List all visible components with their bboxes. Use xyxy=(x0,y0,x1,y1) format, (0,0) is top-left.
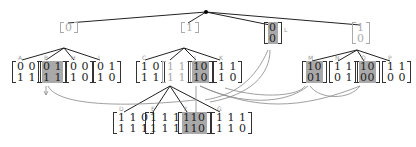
matrix-row: 1 1 1 xyxy=(150,123,181,134)
matrix-node-b: 0 11 1 xyxy=(38,61,67,83)
matrix-row: 0 xyxy=(65,22,73,33)
node-label: I xyxy=(98,54,100,61)
matrix-row: 1 0 xyxy=(70,72,89,83)
matrix-node-c: 1 01 1 xyxy=(136,61,165,83)
right-bracket xyxy=(207,112,211,134)
right-bracket xyxy=(195,22,199,33)
matrix-node-g: 1 1 11 1 0 xyxy=(211,112,252,134)
matrix-node-o: 1000 xyxy=(355,61,380,83)
matrix-cells: 1000 xyxy=(359,61,376,83)
node-label: L xyxy=(284,26,287,33)
matrix-node-f: 110110 xyxy=(178,112,211,134)
matrix-row: 0 xyxy=(269,33,277,44)
matrix-row: 10 xyxy=(193,72,208,83)
matrix-node-p: 1 10 0 xyxy=(382,61,411,83)
node-label: N xyxy=(335,54,340,61)
matrix-row: 1 1 0 xyxy=(216,123,247,134)
matrix-cells: 1 01 1 xyxy=(140,61,161,83)
matrix-node-l: 00 xyxy=(264,22,282,44)
matrix-cells: 0 01 1 xyxy=(16,61,37,83)
node-label: M xyxy=(308,54,313,61)
matrix-node-h: 0 01 0 xyxy=(65,61,94,83)
matrix-row: 1 1 xyxy=(167,72,186,83)
node-label: C xyxy=(142,54,146,61)
matrix-node-n3: 10 xyxy=(352,22,370,44)
matrix-node-i: 0 11 0 xyxy=(92,61,121,83)
matrix-row: 1 1 xyxy=(17,72,36,83)
node-label: A xyxy=(18,54,22,61)
matrix-row: 01 xyxy=(307,72,322,83)
matrix-node-a: 0 01 1 xyxy=(12,61,41,83)
matrix-node-j: 1010 xyxy=(188,61,213,83)
matrix-row: 1 1 xyxy=(141,72,160,83)
right-bracket xyxy=(366,22,370,44)
right-bracket xyxy=(238,61,242,83)
matrix-node-n0: 0 xyxy=(60,22,78,33)
right-bracket xyxy=(376,61,380,83)
node-label: H xyxy=(71,54,76,61)
right-bracket xyxy=(323,61,327,83)
matrix-cells: 110110 xyxy=(182,112,207,134)
matrix-cells: 1 11 1 xyxy=(166,61,187,83)
node-label: F xyxy=(184,105,187,112)
matrix-cells: 1 10 0 xyxy=(386,61,407,83)
matrix-node-m: 1001 xyxy=(302,61,327,83)
matrix-cells: 00 xyxy=(268,22,278,44)
matrix-row: 1 1 xyxy=(43,72,62,83)
node-label: P xyxy=(388,54,392,61)
right-bracket xyxy=(278,22,282,44)
right-bracket xyxy=(248,112,252,134)
node-label: O xyxy=(361,54,366,61)
matrix-row: 1 xyxy=(186,22,194,33)
matrix-row: 1 0 xyxy=(218,72,237,83)
node-label: E xyxy=(151,105,155,112)
matrix-cells: 0 11 0 xyxy=(96,61,117,83)
matrix-row: 00 xyxy=(360,72,375,83)
matrix-row: 0 xyxy=(357,33,365,44)
matrix-cells: 10 xyxy=(356,22,366,44)
matrix-node-n: 1 10 1 xyxy=(329,61,358,83)
matrix-cells: 1 1 11 1 1 xyxy=(149,112,182,134)
matrix-cells: 1 11 0 xyxy=(217,61,238,83)
matrix-node-cx: 1 11 1 xyxy=(162,61,191,83)
matrix-cells: 0 xyxy=(64,22,74,33)
right-bracket xyxy=(407,61,411,83)
matrix-row: 1 1 1 xyxy=(118,123,149,134)
matrix-cells: 0 01 0 xyxy=(69,61,90,83)
matrix-node-n1: 1 xyxy=(181,22,199,33)
root-node xyxy=(204,10,208,14)
right-bracket xyxy=(74,22,78,33)
matrix-cells: 1 xyxy=(185,22,195,33)
matrix-node-k: 1 11 0 xyxy=(213,61,242,83)
matrix-cells: 0 11 1 xyxy=(42,61,63,83)
node-label: K xyxy=(219,54,223,61)
matrix-cells: 1001 xyxy=(306,61,323,83)
node-label: B xyxy=(44,54,48,61)
matrix-row: 1 0 xyxy=(97,72,116,83)
matrix-cells: 1010 xyxy=(192,61,209,83)
matrix-cells: 1 1 11 1 0 xyxy=(215,112,248,134)
right-bracket xyxy=(117,61,121,83)
matrix-cells: 1 10 1 xyxy=(333,61,354,83)
node-label: G xyxy=(217,105,222,112)
matrix-row: 0 0 xyxy=(387,72,406,83)
matrix-row: 0 1 xyxy=(334,72,353,83)
matrix-row: 110 xyxy=(183,123,206,134)
node-label: J xyxy=(194,54,196,61)
node-label: D xyxy=(119,105,124,112)
